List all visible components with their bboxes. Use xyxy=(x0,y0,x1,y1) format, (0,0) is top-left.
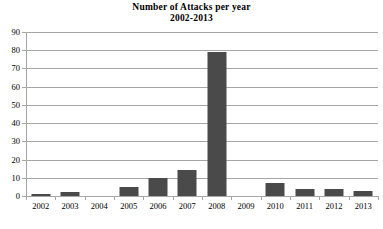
x-tick-label-2008: 2008 xyxy=(202,201,231,211)
y-tick-label-wrap-60: 60 xyxy=(0,83,20,91)
x-tick-label-2013: 2013 xyxy=(349,201,378,211)
y-tick-label-wrap-0: 0 xyxy=(0,192,20,200)
bar-slot xyxy=(55,32,84,196)
y-tick-label-0: 0 xyxy=(0,192,20,200)
y-tick-label-90: 90 xyxy=(0,28,20,36)
x-tick-mark xyxy=(290,196,291,200)
x-tick-label-2006: 2006 xyxy=(143,201,172,211)
x-tick-label-2005: 2005 xyxy=(114,201,143,211)
x-tick-label-2010: 2010 xyxy=(261,201,290,211)
chart-title: Number of Attacks per year xyxy=(0,2,383,13)
bar[interactable] xyxy=(324,189,343,196)
x-tick-mark xyxy=(85,196,86,200)
x-tick-mark xyxy=(319,196,320,200)
bar-slot xyxy=(173,32,202,196)
y-tick-label-30: 30 xyxy=(0,137,20,145)
x-tick-mark xyxy=(378,196,379,200)
bar-chart: Number of Attacks per year 2002-2013 908… xyxy=(0,0,383,229)
bar-slot xyxy=(319,32,348,196)
y-tick-label-wrap-30: 30 xyxy=(0,137,20,145)
x-tick-mark xyxy=(231,196,232,200)
y-tick-label-wrap-70: 70 xyxy=(0,64,20,72)
x-tick-mark xyxy=(26,196,27,200)
bar[interactable] xyxy=(148,178,167,196)
chart-title-block: Number of Attacks per year 2002-2013 xyxy=(0,2,383,24)
x-tick-mark xyxy=(143,196,144,200)
x-tick-mark xyxy=(173,196,174,200)
bar-slot xyxy=(143,32,172,196)
y-tick-label-50: 50 xyxy=(0,101,20,109)
y-tick-label-70: 70 xyxy=(0,64,20,72)
bar-slot xyxy=(85,32,114,196)
y-tick-label-wrap-90: 90 xyxy=(0,28,20,36)
x-tick-mark xyxy=(202,196,203,200)
y-tick-label-wrap-50: 50 xyxy=(0,101,20,109)
x-tick-label-2009: 2009 xyxy=(231,201,260,211)
x-tick-mark xyxy=(114,196,115,200)
x-tick-label-2004: 2004 xyxy=(85,201,114,211)
x-tick-label-2011: 2011 xyxy=(290,201,319,211)
y-tick-label-10: 10 xyxy=(0,174,20,182)
bar[interactable] xyxy=(119,187,138,196)
x-tick-label-2002: 2002 xyxy=(26,201,55,211)
chart-subtitle: 2002-2013 xyxy=(0,13,383,24)
y-tick-label-80: 80 xyxy=(0,46,20,54)
bar[interactable] xyxy=(266,183,285,196)
bar-slot xyxy=(290,32,319,196)
bar-series xyxy=(26,32,378,196)
bar-slot xyxy=(114,32,143,196)
bar[interactable] xyxy=(207,52,226,196)
y-tick-label-wrap-80: 80 xyxy=(0,46,20,54)
bar-slot xyxy=(261,32,290,196)
x-tick-mark xyxy=(349,196,350,200)
y-tick-label-40: 40 xyxy=(0,119,20,127)
x-tick-label-2003: 2003 xyxy=(55,201,84,211)
x-tick-mark xyxy=(55,196,56,200)
x-tick-label-2012: 2012 xyxy=(319,201,348,211)
y-tick-label-wrap-10: 10 xyxy=(0,174,20,182)
bar-slot xyxy=(26,32,55,196)
x-axis-labels: 2002200320042005200620072008200920102011… xyxy=(26,201,378,215)
y-tick-label-20: 20 xyxy=(0,156,20,164)
bar-slot xyxy=(202,32,231,196)
bar-slot xyxy=(349,32,378,196)
y-tick-label-wrap-20: 20 xyxy=(0,156,20,164)
y-tick-label-60: 60 xyxy=(0,83,20,91)
x-tick-mark xyxy=(261,196,262,200)
bar[interactable] xyxy=(178,170,197,196)
bar[interactable] xyxy=(295,189,314,196)
y-tick-label-wrap-40: 40 xyxy=(0,119,20,127)
bar-slot xyxy=(231,32,260,196)
x-tick-label-2007: 2007 xyxy=(173,201,202,211)
